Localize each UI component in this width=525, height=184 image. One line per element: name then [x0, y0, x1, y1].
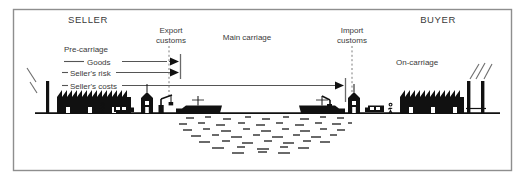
- label-seller: SELLER: [68, 14, 108, 25]
- label-main-carriage: Main carriage: [223, 33, 272, 42]
- label-import-customs-line2: customs: [337, 36, 367, 45]
- label-buyer: BUYER: [420, 14, 456, 25]
- label-on-carriage: On-carriage: [396, 58, 439, 67]
- incoterms-diagram: SELLER BUYER Export customs Import custo…: [0, 0, 525, 184]
- label-export-customs-line1: Export: [159, 26, 183, 35]
- label-goods: Goods: [87, 58, 111, 67]
- label-export-customs-line2: customs: [156, 36, 186, 45]
- label-sellers-risk: Seller's risk: [70, 69, 112, 78]
- label-sellers-costs: Seller's costs: [70, 82, 117, 91]
- left-chimney-icon: [46, 81, 49, 113]
- label-import-customs-line1: Import: [341, 26, 364, 35]
- figure-canvas: SELLER BUYER Export customs Import custo…: [0, 0, 525, 184]
- label-pre-carriage: Pre-carriage: [64, 45, 109, 54]
